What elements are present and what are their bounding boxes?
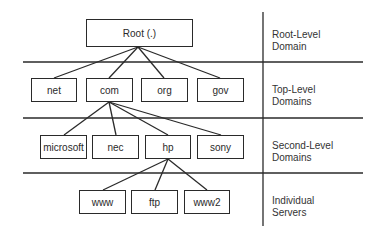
- node-org: org: [141, 78, 188, 102]
- node-net: net: [31, 78, 77, 102]
- node-root: Root (.): [86, 19, 193, 47]
- node-label: ftp: [149, 197, 160, 208]
- node-label: com: [100, 85, 119, 96]
- node-com: com: [86, 78, 133, 102]
- node-label: www2: [193, 197, 220, 208]
- node-hp: hp: [145, 135, 191, 159]
- node-label: org: [157, 85, 171, 96]
- node-label: microsoft: [43, 142, 84, 153]
- node-nec: nec: [92, 135, 139, 159]
- level-label-line: Domains: [272, 96, 315, 108]
- node-gov: gov: [197, 78, 244, 102]
- level-label-line: Domains: [272, 152, 333, 164]
- level-label-servers: Individual Servers: [272, 195, 314, 219]
- node-label: www: [92, 197, 114, 208]
- level-label-line: Domain: [272, 41, 320, 53]
- level-label-root: Root-Level Domain: [272, 29, 320, 53]
- node-www2: www2: [184, 190, 230, 214]
- node-label: sony: [210, 142, 231, 153]
- node-label: Root (.): [123, 28, 156, 39]
- node-sony: sony: [197, 135, 244, 159]
- node-label: nec: [107, 142, 123, 153]
- level-label-second: Second-Level Domains: [272, 140, 333, 164]
- node-label: net: [47, 85, 61, 96]
- node-label: gov: [212, 85, 228, 96]
- level-label-line: Servers: [272, 207, 314, 219]
- level-label-line: Second-Level: [272, 140, 333, 152]
- node-microsoft: microsoft: [40, 135, 87, 159]
- node-label: hp: [162, 142, 173, 153]
- dns-hierarchy-diagram: Root (.) net com org gov microsoft nec h…: [0, 0, 379, 236]
- level-label-line: Individual: [272, 195, 314, 207]
- edge-hp-www2: [168, 159, 207, 190]
- level-label-line: Top-Level: [272, 84, 315, 96]
- node-www: www: [79, 190, 126, 214]
- edge-hp-www: [103, 159, 168, 190]
- node-ftp: ftp: [131, 190, 178, 214]
- level-label-top: Top-Level Domains: [272, 84, 315, 108]
- level-label-line: Root-Level: [272, 29, 320, 41]
